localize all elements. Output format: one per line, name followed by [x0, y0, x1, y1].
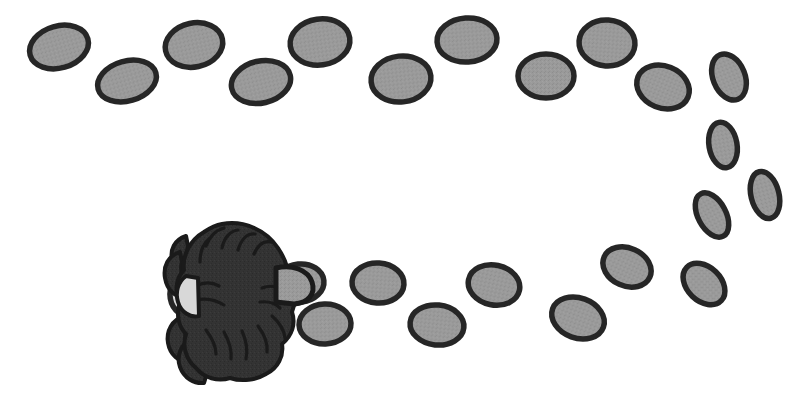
- footprint: [351, 261, 406, 305]
- footprint: [436, 16, 499, 64]
- spider-right-print: [276, 267, 313, 304]
- footprint: [518, 54, 574, 98]
- spider-left-highlight: [177, 276, 199, 316]
- illustration-canvas: [0, 0, 806, 411]
- spider-trail-illustration: [0, 0, 806, 411]
- footprint: [298, 303, 351, 345]
- footprint: [577, 18, 636, 68]
